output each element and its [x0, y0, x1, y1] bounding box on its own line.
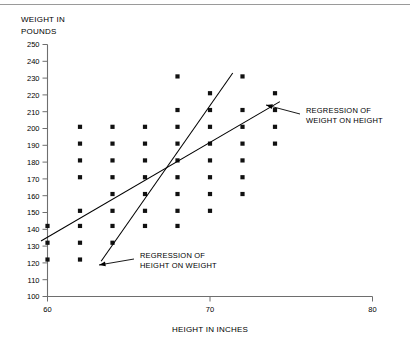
- scatter-point: [78, 142, 82, 146]
- y-tick-label: 220: [27, 91, 40, 100]
- scatter-point: [78, 158, 82, 162]
- scatter-point: [273, 142, 277, 146]
- y-axis-title-line-2: POUNDS: [21, 27, 56, 36]
- scatter-point: [240, 108, 244, 112]
- scatter-point: [273, 108, 277, 112]
- scatter-point: [208, 91, 212, 95]
- scatter-point: [143, 158, 147, 162]
- y-tick-label: 110: [28, 276, 40, 285]
- annotation-label: REGRESSION OF: [140, 251, 205, 260]
- scatter-point: [110, 175, 114, 179]
- scatter-point: [45, 257, 49, 261]
- scatter-point: [240, 74, 244, 78]
- y-tick-label: 240: [27, 57, 40, 66]
- scatter-point: [208, 125, 212, 129]
- scatter-point: [208, 158, 212, 162]
- annotation-label: HEIGHT ON WEIGHT: [140, 261, 217, 270]
- scatter-point: [175, 125, 179, 129]
- scatter-point: [240, 175, 244, 179]
- scatter-point: [208, 209, 212, 213]
- scatter-point: [143, 125, 147, 129]
- scatter-point: [208, 175, 212, 179]
- scatter-point: [175, 175, 179, 179]
- scatter-point: [175, 74, 179, 78]
- scatter-point: [240, 192, 244, 196]
- y-tick-label: 120: [27, 259, 40, 268]
- x-tick-label: 80: [368, 305, 376, 314]
- annotation-label: WEIGHT ON HEIGHT: [306, 116, 383, 125]
- scatter-point: [175, 224, 179, 228]
- scatter-point: [240, 158, 244, 162]
- y-tick-label: 100: [27, 292, 40, 301]
- scatter-point: [175, 142, 179, 146]
- scatter-point: [78, 175, 82, 179]
- scatter-point: [143, 209, 147, 213]
- scatter-point: [110, 158, 114, 162]
- scatter-point: [273, 91, 277, 95]
- y-tick-label: 140: [27, 225, 40, 234]
- y-tick-label: 150: [27, 208, 40, 217]
- scatter-point: [110, 192, 114, 196]
- scatter-point: [110, 125, 114, 129]
- y-tick-label: 230: [27, 74, 40, 83]
- scatter-point: [78, 224, 82, 228]
- scatter-point: [78, 125, 82, 129]
- y-tick-label: 130: [27, 242, 40, 251]
- scatter-point: [45, 224, 49, 228]
- y-tick-label: 160: [27, 192, 40, 201]
- scatter-point: [110, 209, 114, 213]
- scatter-point: [208, 192, 212, 196]
- scatter-point: [78, 209, 82, 213]
- scatter-point: [45, 241, 49, 245]
- scatter-point: [110, 224, 114, 228]
- scatter-point: [143, 224, 147, 228]
- scatter-point: [240, 142, 244, 146]
- y-tick-label: 170: [27, 175, 40, 184]
- scatter-point: [175, 209, 179, 213]
- x-axis-title: HEIGHT IN INCHES: [172, 325, 248, 334]
- y-axis-title-line-1: WEIGHT IN: [21, 15, 65, 24]
- scatter-point: [78, 241, 82, 245]
- figure-background: [0, 0, 410, 344]
- scatter-point: [143, 175, 147, 179]
- x-tick-label: 70: [206, 305, 214, 314]
- y-tick-label: 210: [27, 108, 40, 117]
- scatter-point: [143, 142, 147, 146]
- y-tick-label: 250: [27, 40, 40, 49]
- scatter-point: [175, 192, 179, 196]
- scatter-point: [175, 108, 179, 112]
- annotation-label: REGRESSION OF: [306, 106, 371, 115]
- scatter-point: [78, 257, 82, 261]
- scatter-point: [240, 125, 244, 129]
- x-tick-label: 60: [43, 305, 51, 314]
- scatter-plot-figure: WEIGHT IN POUNDS 10011012013014015016017…: [0, 0, 410, 344]
- scatter-point: [273, 125, 277, 129]
- scatter-point: [110, 142, 114, 146]
- y-tick-label: 180: [27, 158, 40, 167]
- y-tick-label: 200: [27, 124, 40, 133]
- y-tick-label: 190: [27, 141, 40, 150]
